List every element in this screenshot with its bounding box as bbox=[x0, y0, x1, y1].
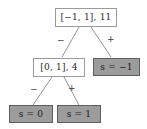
edge-label-root-right: + bbox=[107, 35, 115, 44]
decision-tree-diagram: [−1, 1], 11 [0, 1], 4 s = −1 s = 0 s = 1… bbox=[0, 0, 147, 129]
tree-leaf-bottom-right-label: s = 1 bbox=[67, 110, 92, 119]
edge-label-child-left: − bbox=[30, 85, 38, 94]
tree-leaf-right-top-label: s = −1 bbox=[100, 63, 132, 72]
tree-node-root-label: [−1, 1], 11 bbox=[60, 13, 111, 22]
tree-leaf-right-top: s = −1 bbox=[93, 58, 140, 76]
tree-node-left-child-label: [0, 1], 4 bbox=[40, 63, 77, 72]
tree-leaf-bottom-left: s = 0 bbox=[9, 105, 53, 123]
edge-root-to-left-child bbox=[62, 27, 79, 57]
edge-label-child-right: + bbox=[68, 84, 76, 93]
tree-node-left-child: [0, 1], 4 bbox=[33, 58, 85, 77]
edge-label-root-left: − bbox=[57, 36, 65, 45]
tree-node-root: [−1, 1], 11 bbox=[55, 8, 117, 27]
tree-leaf-bottom-right: s = 1 bbox=[57, 105, 101, 123]
tree-leaf-bottom-left-label: s = 0 bbox=[19, 110, 44, 119]
